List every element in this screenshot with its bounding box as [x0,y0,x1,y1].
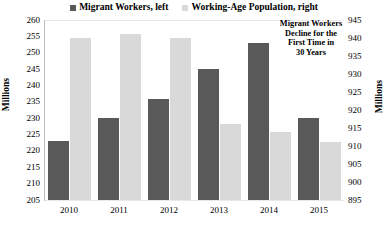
left-axis-tick: 215 [16,163,40,172]
left-axis-title: Millions [1,78,11,111]
right-axis-tick: 920 [348,106,372,115]
x-axis-tick: 2014 [244,203,294,217]
x-axis-tick: 2012 [144,203,194,217]
annotation-line: 30 Years [272,48,350,58]
bar-group [45,20,95,200]
bar-migrant-workers[interactable] [48,141,69,200]
bar-migrant-workers[interactable] [298,118,319,200]
bar-working-age-population[interactable] [170,38,191,200]
right-axis-tick: 945 [348,16,372,25]
right-axis-tick: 910 [348,142,372,151]
left-axis-tick: 205 [16,196,40,205]
bar-group [194,20,244,200]
legend-item-label: Working-Age Population, right [191,3,317,13]
annotation-line: Decline for the [272,29,350,39]
chart-container: Migrant Workers, left Working-Age Popula… [0,0,388,229]
x-axis-tick: 2015 [294,203,344,217]
left-axis-tick: 255 [16,32,40,41]
left-axis-tick: 225 [16,130,40,139]
chart-annotation: Migrant Workers Decline for the First Ti… [272,19,350,57]
left-axis-tick: 210 [16,179,40,188]
square-swatch-icon [182,5,188,11]
left-axis-tick: 250 [16,48,40,57]
bar-migrant-workers[interactable] [148,99,169,201]
left-axis-tick: 220 [16,146,40,155]
annotation-line: First Time in [272,38,350,48]
x-axis-tick: 2013 [194,203,244,217]
left-axis-tick: 260 [16,16,40,25]
right-axis-tick: 930 [348,70,372,79]
legend-item-label: Migrant Workers, left [79,3,168,13]
x-axis-tick: 2010 [44,203,94,217]
left-axis-tick: 230 [16,114,40,123]
gridline [45,200,344,201]
left-axis-tick: 240 [16,81,40,90]
bar-migrant-workers[interactable] [198,69,219,200]
right-axis-tick: 935 [348,52,372,61]
chart-legend: Migrant Workers, left Working-Age Popula… [0,1,388,14]
square-swatch-icon [70,5,76,11]
right-axis-tick: 925 [348,88,372,97]
left-axis-tick: 235 [16,97,40,106]
left-axis-tick: 245 [16,65,40,74]
right-axis-tick: 940 [348,34,372,43]
right-axis-tick: 900 [348,178,372,187]
right-axis-tick: 895 [348,196,372,205]
bar-group [145,20,195,200]
bar-working-age-population[interactable] [270,132,291,200]
bar-working-age-population[interactable] [320,142,341,200]
right-axis-title: Millions [374,80,384,113]
x-axis-labels: 2010 2011 2012 2013 2014 2015 [44,203,344,217]
annotation-line: Migrant Workers [272,19,350,29]
bar-migrant-workers[interactable] [248,43,269,200]
right-axis-tick: 905 [348,160,372,169]
bar-working-age-population[interactable] [70,38,91,200]
bar-working-age-population[interactable] [120,34,141,200]
x-axis-tick: 2011 [94,203,144,217]
bar-group [95,20,145,200]
bar-working-age-population[interactable] [220,124,241,200]
legend-item-migrant-workers[interactable]: Migrant Workers, left [70,3,168,13]
right-axis-tick: 915 [348,124,372,133]
bar-migrant-workers[interactable] [98,118,119,200]
legend-item-working-age-population[interactable]: Working-Age Population, right [182,3,317,13]
